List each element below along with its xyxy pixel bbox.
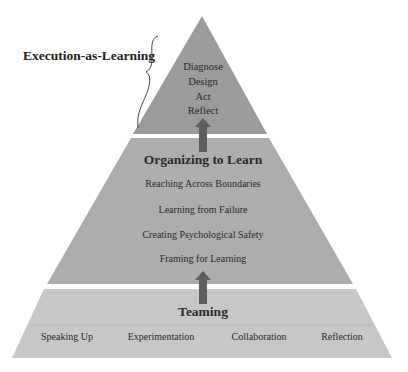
bottom-item-reflection: Reflection (321, 331, 363, 342)
top-item-act: Act (195, 90, 210, 104)
top-item-reflect: Reflect (188, 104, 218, 118)
middle-item-framing-for-learning: Framing for Learning (160, 253, 247, 264)
middle-item-reaching-across-boundaries: Reaching Across Boundaries (145, 178, 261, 189)
bottom-tier-title: Teaming (178, 304, 228, 320)
bottom-item-speaking-up: Speaking Up (41, 331, 93, 342)
top-item-design: Design (188, 75, 218, 89)
middle-tier-title: Organizing to Learn (144, 152, 263, 168)
bottom-item-experimentation: Experimentation (128, 331, 195, 342)
execution-as-learning-label: Execution-as-Learning (23, 48, 155, 64)
middle-item-learning-from-failure: Learning from Failure (159, 204, 248, 215)
top-item-diagnose: Diagnose (183, 60, 223, 74)
bottom-item-collaboration: Collaboration (232, 331, 287, 342)
middle-item-creating-psychological-safety: Creating Psychological Safety (142, 229, 263, 240)
